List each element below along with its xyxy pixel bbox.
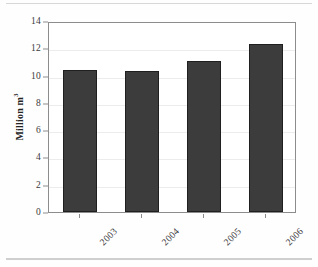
x-axis-tick-mark (141, 214, 142, 218)
y-axis-tick-label: 8 (36, 99, 41, 109)
x-axis: 2003200420052006 (48, 214, 296, 264)
x-axis-tick-label: 2003 (98, 226, 119, 247)
bar (249, 44, 283, 212)
plot-area (48, 22, 296, 213)
bar (187, 61, 221, 212)
x-axis-tick-mark (203, 214, 204, 218)
x-axis-tick-mark (79, 214, 80, 218)
y-axis-tick-label: 12 (31, 45, 41, 55)
y-axis-tick-label: 0 (36, 208, 41, 218)
y-axis-tick-label: 10 (31, 72, 41, 82)
bar (63, 70, 97, 212)
y-axis-tick-label: 4 (36, 154, 41, 164)
x-axis-tick-label: 2006 (284, 226, 305, 247)
page-rule-top (6, 3, 312, 4)
y-axis-tick-label: 2 (36, 181, 41, 191)
y-axis: 02468101214 (0, 0, 48, 213)
chart-figure: Million m3 02468101214 2003200420052006 (0, 0, 318, 267)
y-axis-tick-label: 14 (31, 17, 41, 27)
x-axis-tick-mark (265, 214, 266, 218)
x-axis-tick-label: 2004 (160, 226, 181, 247)
y-axis-tick-label: 6 (36, 126, 41, 136)
x-axis-tick-label: 2005 (222, 226, 243, 247)
bar (125, 71, 159, 212)
